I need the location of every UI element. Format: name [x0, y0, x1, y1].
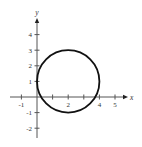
y-axis-arrow-icon — [35, 18, 39, 23]
x-tick-label: 4 — [98, 101, 102, 109]
circle-graph: -1245-2-11234 x y — [0, 0, 142, 147]
y-tick-label: 4 — [29, 31, 33, 39]
y-tick-label: 2 — [29, 62, 33, 70]
x-axis-label: x — [129, 93, 134, 102]
tick-labels: -1245-2-11234 — [18, 31, 117, 133]
ticks — [21, 35, 115, 129]
y-tick-label: -2 — [26, 125, 32, 133]
x-axis-arrow-icon — [123, 95, 128, 99]
y-tick-label: 1 — [29, 78, 33, 86]
x-tick-label: 5 — [113, 101, 117, 109]
y-tick-label: -1 — [26, 109, 32, 117]
x-tick-label: 2 — [66, 101, 70, 109]
x-tick-label: -1 — [18, 101, 24, 109]
y-tick-label: 3 — [29, 47, 33, 55]
y-axis-label: y — [34, 8, 39, 17]
